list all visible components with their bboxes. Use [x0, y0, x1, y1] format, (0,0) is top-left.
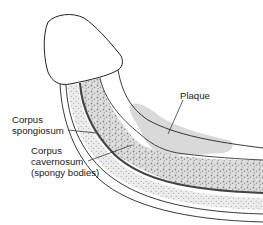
glans	[44, 15, 122, 85]
label-corpus-spongiosum: Corpus spongiosum	[12, 114, 64, 136]
label-spongiosum-line2: spongiosum	[12, 125, 64, 136]
anatomy-diagram	[0, 0, 263, 225]
label-cavernosum-line2: cavernosum	[31, 156, 99, 167]
label-cavernosum-line1: Corpus	[31, 145, 99, 156]
label-corpus-cavernosum: Corpus cavernosum (spongy bodies)	[31, 145, 99, 178]
label-spongiosum-line1: Corpus	[12, 114, 64, 125]
label-cavernosum-line3: (spongy bodies)	[31, 167, 99, 178]
label-plaque-text: Plaque	[180, 90, 210, 101]
label-plaque: Plaque	[180, 90, 210, 101]
